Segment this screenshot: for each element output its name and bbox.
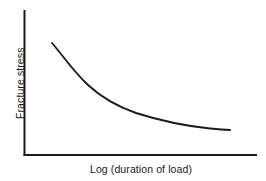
chart-canvas	[0, 0, 266, 181]
figure-container: Fracture stress Log (duration of load)	[0, 0, 266, 181]
x-axis-label: Log (duration of load)	[24, 164, 258, 175]
fracture-stress-curve	[52, 43, 230, 130]
y-axis-label: Fracture stress	[15, 35, 26, 131]
